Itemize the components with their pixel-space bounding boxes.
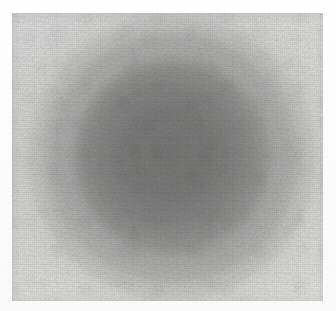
photographic-plate [12,13,323,301]
plate-photograph-figure: Grainy grey photographic plate showing a… [0,0,336,311]
plate-edge-shading [12,13,323,301]
